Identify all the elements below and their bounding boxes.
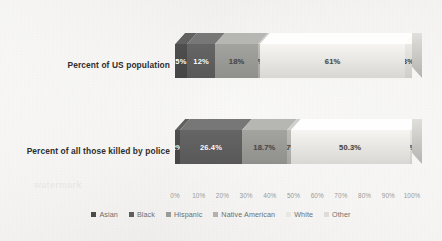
bar-segment-hispanic: 18.7% — [242, 130, 286, 164]
x-axis-tick: 70% — [334, 192, 347, 199]
bar-front-face: 5%12%18%1%61%3% — [175, 44, 412, 78]
legend-swatch-icon — [324, 212, 329, 217]
legend-item-black[interactable]: Black — [129, 210, 155, 219]
bar-segment-white: 50.3% — [291, 130, 410, 164]
legend-swatch-icon — [166, 212, 171, 217]
category-label-killed-by-police: Percent of all those killed by police — [27, 146, 170, 156]
bar-top-segment — [260, 33, 414, 44]
bar-segment-black: 26.4% — [180, 130, 243, 164]
legend-item-native-american[interactable]: Native American — [213, 210, 275, 219]
bar-segment-value: 5% — [175, 57, 186, 66]
bar-end-cap — [412, 33, 422, 78]
plot-area: Percent of US population Percent of all … — [0, 0, 442, 241]
bar-segment-value: 50.3% — [339, 143, 361, 152]
bar-segment-white: 61% — [260, 44, 405, 78]
bar-segment-value: 18.7% — [253, 143, 275, 152]
x-axis-tick: 0% — [170, 192, 179, 199]
x-axis: 0%10%20%30%40%50%60%70%80%90%100% — [175, 192, 412, 202]
legend-swatch-icon — [286, 212, 291, 217]
x-axis-tick: 40% — [263, 192, 276, 199]
legend-label: White — [294, 210, 313, 219]
legend: AsianBlackHispanicNative AmericanWhiteOt… — [0, 210, 442, 219]
bar-segment-value: 26.4% — [200, 143, 222, 152]
stacked-bar-us-population: 5%12%18%1%61%3% — [175, 44, 412, 78]
bar-segment-hispanic: 18% — [215, 44, 258, 78]
x-axis-tick: 80% — [358, 192, 371, 199]
bar-segment-value: 3% — [405, 57, 412, 66]
bar-front-face: 2%26.4%18.7%1.7%50.3%1% — [175, 130, 412, 164]
chart-canvas: Percent of US population Percent of all … — [0, 0, 442, 241]
stacked-bar-killed-by-police: 2%26.4%18.7%1.7%50.3%1% — [175, 130, 412, 164]
legend-label: Asian — [99, 210, 117, 219]
legend-item-white[interactable]: White — [286, 210, 313, 219]
legend-label: Other — [332, 210, 350, 219]
watermark-ghost: watermark — [34, 181, 150, 200]
legend-item-other[interactable]: Other — [324, 210, 350, 219]
bar-end-cap — [412, 119, 422, 164]
x-axis-tick: 10% — [192, 192, 205, 199]
bar-segment-value: 18% — [229, 57, 245, 66]
legend-swatch-icon — [91, 212, 96, 217]
x-axis-tick: 20% — [216, 192, 229, 199]
bar-segment-value: 61% — [325, 57, 341, 66]
x-axis-tick: 50% — [287, 192, 300, 199]
x-axis-tick: 100% — [404, 192, 421, 199]
legend-item-asian[interactable]: Asian — [91, 210, 117, 219]
bar-segment-other: 1% — [410, 130, 412, 164]
bar-top-segment — [291, 119, 420, 130]
x-axis-tick: 30% — [240, 192, 253, 199]
bar-top-face — [175, 33, 422, 44]
category-label-us-population: Percent of US population — [68, 60, 170, 70]
bar-segment-value: 1% — [410, 143, 412, 152]
bar-segment-black: 12% — [187, 44, 215, 78]
bar-segment-asian: 5% — [175, 44, 187, 78]
x-axis-tick: 60% — [311, 192, 324, 199]
x-axis-tick: 90% — [382, 192, 395, 199]
bar-top-face — [175, 119, 422, 130]
bar-top-segment — [180, 119, 252, 130]
legend-swatch-icon — [213, 212, 218, 217]
legend-swatch-icon — [129, 212, 134, 217]
legend-label: Black — [137, 210, 155, 219]
bar-segment-value: 12% — [193, 57, 209, 66]
legend-label: Hispanic — [174, 210, 202, 219]
legend-label: Native American — [221, 210, 275, 219]
bar-segment-other: 3% — [405, 44, 412, 78]
legend-item-hispanic[interactable]: Hispanic — [166, 210, 202, 219]
